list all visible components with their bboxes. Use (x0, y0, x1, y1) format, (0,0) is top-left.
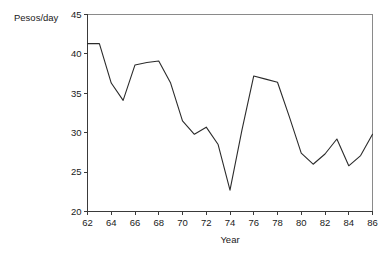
x-tick-label: 82 (320, 217, 331, 228)
y-tick-label: 40 (71, 48, 82, 59)
y-axis-label: Pesos/day (14, 12, 59, 23)
x-axis-tick-labels: 62646668707274767880828486 (82, 217, 378, 228)
x-tick-label: 72 (201, 217, 212, 228)
plot-frame (88, 15, 373, 212)
y-tick-label: 25 (71, 166, 82, 177)
x-tick-label: 86 (367, 217, 378, 228)
y-axis-ticks (84, 15, 88, 212)
x-tick-label: 68 (153, 217, 164, 228)
y-axis-tick-labels: 202530354045 (71, 9, 82, 217)
y-tick-label: 45 (71, 9, 82, 20)
x-tick-label: 66 (130, 217, 141, 228)
data-series-pesos-per-day (88, 44, 373, 191)
chart-canvas: 202530354045 62646668707274767880828486 … (0, 0, 389, 253)
y-tick-label: 35 (71, 88, 82, 99)
x-tick-label: 62 (82, 217, 93, 228)
x-tick-label: 80 (296, 217, 307, 228)
y-tick-label: 30 (71, 127, 82, 138)
x-axis-label: Year (220, 234, 239, 245)
y-tick-label: 20 (71, 206, 82, 217)
x-tick-label: 76 (248, 217, 259, 228)
x-tick-label: 64 (106, 217, 117, 228)
x-tick-label: 70 (177, 217, 188, 228)
x-tick-label: 84 (343, 217, 354, 228)
x-tick-label: 78 (272, 217, 283, 228)
x-tick-label: 74 (225, 217, 236, 228)
x-axis-ticks (88, 212, 373, 216)
line-chart: 202530354045 62646668707274767880828486 … (0, 0, 389, 253)
